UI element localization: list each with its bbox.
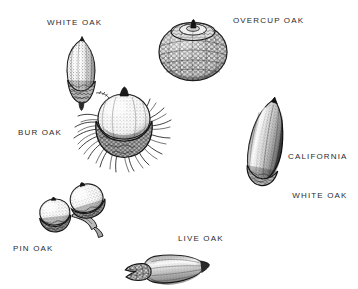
pin-oak-drawing <box>38 182 109 238</box>
label-pin-oak: PIN OAK <box>13 244 54 255</box>
acorn-plate-figure: WHITE OAK OVERCUP OAK BUR OAK CALIFORNIA… <box>0 0 358 289</box>
label-overcup-oak: OVERCUP OAK <box>233 16 304 27</box>
california-white-oak-drawing <box>243 96 290 188</box>
specimen-bur-oak <box>70 80 178 182</box>
bur-oak-drawing <box>74 87 171 172</box>
specimen-pin-oak <box>33 182 119 242</box>
specimen-overcup-oak <box>155 12 235 88</box>
specimen-california-white-oak <box>236 96 298 196</box>
label-white-oak: WHITE OAK <box>47 18 102 29</box>
live-oak-drawing <box>124 251 211 289</box>
label-bur-oak: BUR OAK <box>18 128 62 139</box>
label-live-oak: LIVE OAK <box>178 234 224 245</box>
overcup-oak-drawing <box>159 20 227 81</box>
specimen-live-oak <box>124 249 212 289</box>
